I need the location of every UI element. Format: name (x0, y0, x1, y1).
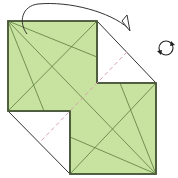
rotate-icon (157, 41, 175, 55)
origami-diagram-svg (0, 0, 178, 178)
bottom-left-flap (8, 111, 70, 174)
origami-diagram (0, 0, 178, 178)
fold-arrowhead-icon (122, 15, 130, 31)
